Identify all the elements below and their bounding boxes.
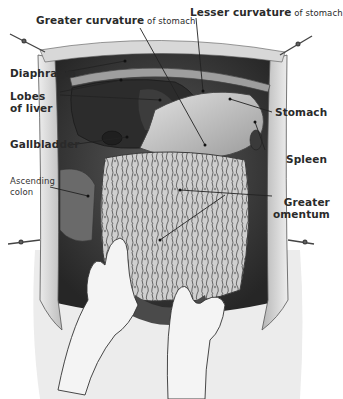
label-lobes-line1: Lobes	[10, 90, 53, 102]
label-greater-curvature-bold: Greater curvature	[36, 14, 144, 26]
label-ascending-line1: Ascending	[10, 176, 55, 187]
label-lesser-curvature: Lesser curvature of stomach	[190, 6, 343, 19]
label-stomach: Stomach	[275, 106, 327, 118]
spleen	[250, 130, 262, 150]
label-omentum-line1: Greater	[281, 196, 330, 208]
label-lobes-line2: of liver	[10, 102, 53, 114]
label-spleen: Spleen	[286, 153, 327, 165]
label-greater-omentum: Greater omentum	[281, 196, 330, 220]
label-lobes-of-liver: Lobes of liver	[10, 90, 53, 114]
ascending-colon	[60, 169, 95, 241]
label-lesser-curvature-rest: of stomach	[291, 8, 342, 18]
label-diaphragm: Diaphragm	[10, 67, 76, 79]
label-lesser-curvature-bold: Lesser curvature	[190, 6, 291, 18]
label-ascending-line2: colon	[10, 187, 55, 198]
label-omentum-line2: omentum	[273, 208, 330, 220]
label-greater-curvature-rest: of stomach	[144, 16, 195, 26]
label-gallbladder: Gallbladder	[10, 138, 80, 150]
label-ascending-colon: Ascending colon	[10, 176, 55, 198]
label-greater-curvature: Greater curvature of stomach	[36, 14, 196, 27]
